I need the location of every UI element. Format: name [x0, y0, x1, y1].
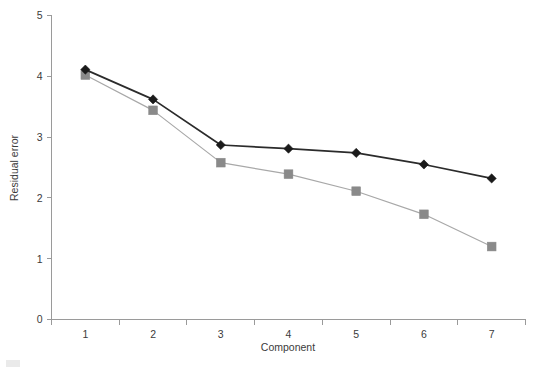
y-tick-label: 2	[37, 192, 43, 204]
y-tick-label: 4	[37, 70, 43, 82]
y-tick-label: 0	[37, 313, 43, 325]
y-axis-title: Residual error	[8, 135, 20, 201]
chart-canvas: 012345 1234567 Component Residual error	[0, 0, 543, 371]
x-axis-title: Component	[261, 341, 315, 353]
y-tick-label: 5	[37, 9, 43, 21]
x-tick-label: 7	[489, 328, 495, 340]
data-point-marker	[216, 158, 225, 167]
y-tick-label: 3	[37, 131, 43, 143]
x-tick-label: 1	[82, 328, 88, 340]
chart-background	[0, 0, 543, 371]
data-point-marker	[487, 242, 496, 251]
page-artifact-mark	[6, 360, 20, 367]
data-point-marker	[149, 106, 158, 115]
x-tick-label: 5	[353, 328, 359, 340]
data-point-marker	[420, 210, 429, 219]
x-tick-label: 4	[286, 328, 292, 340]
data-point-marker	[352, 187, 361, 196]
x-tick-label: 2	[150, 328, 156, 340]
residual-error-chart: 012345 1234567 Component Residual error	[0, 0, 543, 371]
x-tick-label: 6	[421, 328, 427, 340]
x-tick-label: 3	[218, 328, 224, 340]
data-point-marker	[284, 170, 293, 179]
y-tick-label: 1	[37, 253, 43, 265]
